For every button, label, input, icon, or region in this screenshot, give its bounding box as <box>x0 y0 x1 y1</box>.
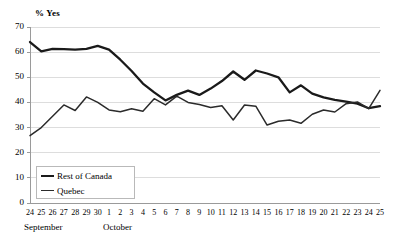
x-axis-tick-label: 27 <box>60 208 68 217</box>
chart-legend: Rest of CanadaQuebec <box>36 166 135 199</box>
x-axis-tick-label: 4 <box>141 208 145 217</box>
x-axis-tick-label: 2 <box>118 208 122 217</box>
y-axis-tick-label: 70 <box>2 21 24 31</box>
legend-item-label: Quebec <box>57 186 84 196</box>
x-axis-tick-label: 23 <box>353 208 361 217</box>
x-axis-tick-label: 10 <box>207 208 215 217</box>
legend-item: Rest of Canada <box>37 168 134 183</box>
y-axis-tick-label: 40 <box>2 96 24 106</box>
legend-line-swatch-icon <box>41 175 54 177</box>
x-axis-tick-label: 9 <box>197 208 201 217</box>
x-axis-tick-label: 22 <box>342 208 350 217</box>
legend-line-swatch-icon <box>41 190 54 191</box>
legend-item: Quebec <box>37 183 134 198</box>
x-axis-tick-label: 30 <box>94 208 102 217</box>
x-axis-tick-label: 26 <box>49 208 57 217</box>
y-axis-tick-label: 30 <box>2 122 24 132</box>
x-axis-tick-label: 25 <box>376 208 384 217</box>
line-chart: % Yes 010203040506070 242526272829301234… <box>0 0 394 242</box>
plot-area <box>0 0 394 242</box>
x-axis-tick-label: 24 <box>26 208 34 217</box>
x-axis-tick-label: 6 <box>163 208 167 217</box>
y-axis-tick-label: 50 <box>2 71 24 81</box>
y-axis-tick-label: 0 <box>2 197 24 207</box>
x-axis-tick-label: 28 <box>71 208 79 217</box>
x-axis-month-label: October <box>103 222 132 232</box>
x-axis-tick-label: 19 <box>308 208 316 217</box>
x-axis-tick-label: 3 <box>130 208 134 217</box>
x-axis-tick-label: 12 <box>229 208 237 217</box>
y-axis-tick-label: 60 <box>2 46 24 56</box>
x-axis-tick-label: 8 <box>186 208 190 217</box>
x-axis-tick-label: 1 <box>107 208 111 217</box>
x-axis-tick-label: 25 <box>37 208 45 217</box>
x-axis-tick-label: 11 <box>218 208 226 217</box>
x-axis-tick-label: 21 <box>331 208 339 217</box>
y-axis-tick-label: 20 <box>2 147 24 157</box>
x-axis-tick-label: 15 <box>263 208 271 217</box>
x-axis-month-label: September <box>24 222 63 232</box>
x-axis-tick-label: 17 <box>286 208 294 217</box>
y-axis-tick-label: 10 <box>2 172 24 182</box>
x-axis-tick-label: 13 <box>241 208 249 217</box>
x-axis-tick-label: 20 <box>320 208 328 217</box>
x-axis-tick-label: 5 <box>152 208 156 217</box>
x-axis-tick-label: 16 <box>274 208 282 217</box>
x-axis-tick-label: 29 <box>82 208 90 217</box>
data-series <box>30 42 380 136</box>
x-axis-tick-label: 14 <box>252 208 260 217</box>
x-axis-tick-label: 7 <box>175 208 179 217</box>
x-axis-tick-label: 24 <box>365 208 373 217</box>
x-axis-tick-label: 18 <box>297 208 305 217</box>
legend-item-label: Rest of Canada <box>57 171 112 181</box>
